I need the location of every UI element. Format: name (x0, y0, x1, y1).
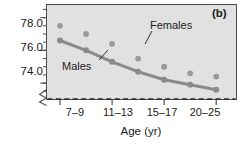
x-axis-tick-label: 7–9 (53, 106, 97, 118)
x-axis-tick-label: 15–17 (140, 106, 184, 118)
females-series-label: Females (150, 19, 192, 31)
plot-area-background (47, 5, 237, 100)
panel-label: (b) (212, 7, 227, 19)
x-axis-major-ticks (60, 100, 216, 106)
y-axis-break-symbol (40, 90, 47, 106)
males-series-label: Males (62, 60, 91, 72)
x-axis-tick-label: 11–13 (96, 106, 140, 118)
y-axis-tick-label: 78.0 (2, 17, 43, 29)
y-axis-tick-label: 74.0 (2, 65, 43, 77)
figure-panel-b: 78.0 76.0 74.0 7–9 11–13 15–17 20–25 Age… (0, 0, 241, 144)
x-axis-tick-label: 20–25 (183, 106, 227, 118)
y-axis-tick-label: 76.0 (2, 41, 43, 53)
x-axis-title: Age (yr) (46, 125, 236, 137)
